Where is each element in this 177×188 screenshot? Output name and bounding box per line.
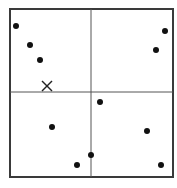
data-point	[74, 162, 80, 168]
data-point	[27, 42, 33, 48]
data-point	[158, 162, 164, 168]
data-point	[88, 152, 94, 158]
x-marker-icon	[42, 81, 52, 91]
data-point	[13, 23, 19, 29]
data-point	[37, 57, 43, 63]
data-point	[144, 128, 150, 134]
data-point	[153, 47, 159, 53]
data-point	[97, 99, 103, 105]
data-point	[162, 28, 168, 34]
quadrant-diagram	[0, 0, 177, 188]
data-point	[49, 124, 55, 130]
